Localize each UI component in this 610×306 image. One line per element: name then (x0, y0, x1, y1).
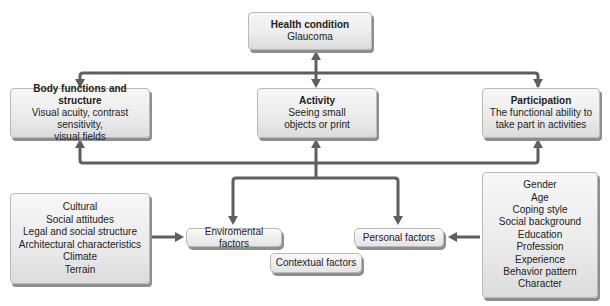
arrow-left-personal (448, 232, 457, 242)
body-functions-line: Visual acuity, contrast sensitivity, (15, 107, 145, 131)
personal-list-box: Gender Age Coping style Social backgroun… (482, 172, 598, 298)
personal-item: Gender (523, 179, 556, 191)
activity-line: Seeing small (288, 107, 345, 119)
personal-factors-box: Personal factors (354, 228, 444, 247)
personal-item: Profession (516, 241, 563, 253)
participation-line: The functional ability to (490, 107, 592, 119)
arrow-up-participation (533, 139, 543, 148)
body-functions-line: visual fields (54, 131, 106, 143)
environmental-factors-label: Enviromental factors (191, 226, 277, 250)
arrow-down-personal (393, 216, 403, 225)
activity-title: Activity (299, 95, 335, 107)
environmental-item: Terrain (65, 264, 96, 277)
environmental-item: Social attitudes (46, 214, 114, 227)
activity-box: Activity Seeing small objects or print (257, 88, 377, 138)
health-condition-detail: Glaucoma (287, 31, 333, 43)
activity-line: objects or print (284, 119, 350, 131)
personal-factors-label: Personal factors (363, 232, 435, 244)
personal-item: Experience (515, 254, 565, 266)
environmental-item: Legal and social structure (23, 226, 137, 239)
environmental-item: Climate (63, 251, 97, 264)
arrow-up-activity (311, 139, 321, 148)
participation-box: Participation The functional ability to … (482, 88, 600, 138)
environmental-item: Cultural (63, 201, 97, 214)
environmental-list-box: Cultural Social attitudes Legal and soci… (10, 193, 150, 284)
arrow-down-participation (533, 79, 543, 88)
personal-item: Behavior pattern (503, 266, 576, 278)
personal-item: Coping style (512, 204, 567, 216)
participation-title: Participation (511, 95, 572, 107)
arrow-up-health (311, 51, 321, 60)
environmental-item: Architectural characteristics (19, 239, 141, 252)
arrow-down-env (228, 216, 238, 225)
personal-item: Age (531, 192, 549, 204)
personal-item: Social background (499, 216, 581, 228)
participation-line: take part in activities (496, 119, 587, 131)
arrow-down-activity (311, 79, 321, 88)
body-functions-title: Body functions and structure (15, 83, 145, 107)
health-condition-box: Health condition Glaucoma (248, 12, 372, 50)
body-functions-box: Body functions and structure Visual acui… (10, 88, 150, 138)
environmental-factors-box: Enviromental factors (186, 228, 282, 247)
health-condition-title: Health condition (271, 19, 349, 31)
contextual-factors-box: Contextual factors (270, 253, 362, 273)
arrow-right-env (175, 232, 184, 242)
contextual-factors-label: Contextual factors (276, 257, 357, 269)
personal-item: Education (518, 229, 562, 241)
personal-item: Character (518, 278, 562, 290)
top-connector (80, 73, 538, 87)
